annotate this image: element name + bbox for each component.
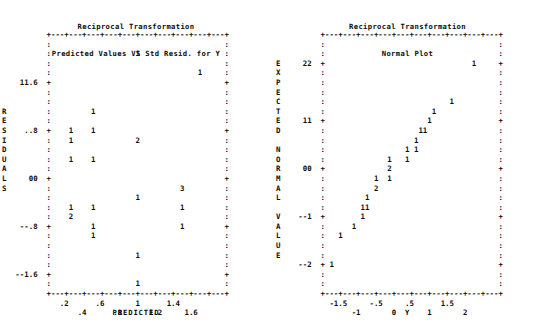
- plot-row-0: +---+---+---+---+---+---+---+---+---+---…: [276, 30, 503, 40]
- plot-row-6: : :: [2, 88, 229, 98]
- plot-row-1: : :: [276, 40, 503, 50]
- panel-predicted-vs-residual: Reciprocal Transformation Predicted Valu…: [0, 0, 272, 328]
- plot-row-24: : :: [2, 260, 229, 270]
- plot-row-5: P : :: [276, 78, 503, 88]
- plot-row-16: S : 3 :: [2, 184, 229, 194]
- plot-row-21: L : 1 :: [276, 231, 503, 241]
- plot-row-0: +---+---+---+---+---+---+---+---+---+---…: [2, 30, 229, 40]
- plot-row-25: --1.6 + +: [2, 270, 229, 280]
- ascii-scatter-plots-page: Reciprocal Transformation Predicted Valu…: [0, 0, 543, 328]
- plot-row-28: -1.5 -.5 .5 1.5: [276, 299, 503, 309]
- panel-right-x-axis-title: Y: [272, 308, 543, 317]
- plot-row-19: : 2 :: [2, 212, 229, 222]
- plot-row-26: : :: [276, 279, 503, 289]
- plot-row-12: D : :: [2, 145, 229, 155]
- plot-row-16: A : 2 :: [276, 184, 503, 194]
- plot-row-1: : :: [2, 40, 229, 50]
- plot-row-5: 11.6 + +: [2, 78, 229, 88]
- plot-row-4: X : :: [276, 68, 503, 78]
- plot-row-14: R 00 + 2 +: [276, 164, 503, 174]
- panel-normal-plot: Reciprocal Transformation Normal Plot +-…: [272, 0, 543, 328]
- panel-left-plot-grid: +---+---+---+---+---+---+---+---+---+---…: [2, 30, 229, 318]
- plot-row-27: +---+---+---+---+---+---+---+---+---+---…: [276, 289, 503, 299]
- plot-row-13: O : 1 1 :: [276, 155, 503, 165]
- plot-row-22: : :: [2, 241, 229, 251]
- plot-row-10: S ..8 + 1 1 +: [2, 126, 229, 136]
- plot-row-7: C : 1 :: [276, 97, 503, 107]
- plot-row-2: : 1 :: [2, 49, 229, 59]
- panel-left-x-axis-title: PREDICTED: [0, 308, 272, 317]
- plot-row-18: : 1 1 1 :: [2, 203, 229, 213]
- plot-row-20: A : 1 :: [276, 222, 503, 232]
- plot-row-24: --2 + 1 +: [276, 260, 503, 270]
- plot-row-3: : :: [2, 59, 229, 69]
- plot-row-19: V --1 + 1 +: [276, 212, 503, 222]
- plot-row-20: --.8 + 1 1 +: [2, 222, 229, 232]
- plot-row-12: N : 1 1 :: [276, 145, 503, 155]
- plot-row-22: U : :: [276, 241, 503, 251]
- plot-row-4: : 1 :: [2, 68, 229, 78]
- plot-row-2: : :: [276, 49, 503, 59]
- plot-row-9: E 11 + 1 +: [276, 116, 503, 126]
- plot-row-17: L : 1 :: [276, 193, 503, 203]
- plot-row-23: : 1 :: [2, 251, 229, 261]
- plot-row-11: I : 1 2 :: [2, 136, 229, 146]
- plot-row-13: U : 1 1 :: [2, 155, 229, 165]
- plot-row-27: +---+---+---+---+---+---+---+---+---+---…: [2, 289, 229, 299]
- plot-row-7: : :: [2, 97, 229, 107]
- panel-right-plot-grid: +---+---+---+---+---+---+---+---+---+---…: [276, 30, 503, 318]
- plot-row-21: : 1 :: [2, 231, 229, 241]
- plot-row-18: : 11 :: [276, 203, 503, 213]
- plot-row-15: M : 1 1 :: [276, 174, 503, 184]
- plot-row-15: L 00 + +: [2, 174, 229, 184]
- plot-row-8: R : 1 :: [2, 107, 229, 117]
- plot-row-17: : 1 :: [2, 193, 229, 203]
- plot-row-28: .2 .6 1 1.4: [2, 299, 229, 309]
- plot-row-25: : :: [276, 270, 503, 280]
- plot-row-10: D : 11 :: [276, 126, 503, 136]
- plot-row-8: T : 1 :: [276, 107, 503, 117]
- plot-row-9: E : :: [2, 116, 229, 126]
- plot-row-26: : 1 :: [2, 279, 229, 289]
- plot-row-23: E : :: [276, 251, 503, 261]
- plot-row-6: E : :: [276, 88, 503, 98]
- plot-row-14: A : :: [2, 164, 229, 174]
- plot-row-3: E 22 + 1 +: [276, 59, 503, 69]
- plot-row-11: : 1 :: [276, 136, 503, 146]
